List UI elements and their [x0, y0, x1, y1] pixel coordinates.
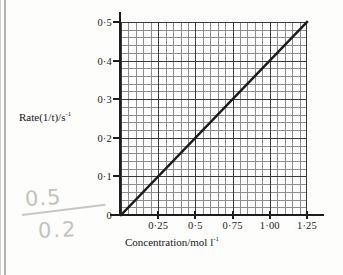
y-axis-title-exponent: -1 [65, 110, 71, 118]
x-axis-tick-label: 0·5 [188, 220, 203, 231]
y-axis-line [119, 12, 121, 216]
page-edge-artifact [0, 0, 1, 275]
y-axis-tick-label: 0·3 [97, 94, 112, 105]
binding-edge-line [4, 0, 6, 275]
y-axis-tick [113, 175, 121, 177]
y-axis-title: Rate(1/t)/s-1 [19, 111, 71, 123]
x-axis-tick-label: 1·00 [260, 220, 280, 231]
y-axis-tick-label: 0·4 [97, 55, 112, 66]
x-axis-tick [269, 211, 271, 219]
y-axis-tick-label: 0 [107, 210, 112, 221]
x-axis-tick [157, 211, 159, 219]
x-axis-tick-label: 0·25 [148, 220, 168, 231]
y-axis-tick [113, 137, 121, 139]
x-axis-tick [232, 211, 234, 219]
x-axis-title-text: Concentration/mol l [125, 236, 213, 248]
grid-right-border [306, 22, 307, 216]
x-axis-tick-label: 1·25 [297, 220, 317, 231]
graph-paper-grid [121, 22, 307, 215]
x-axis-tick [194, 211, 196, 219]
y-axis-tick [113, 214, 121, 216]
x-axis-line [110, 214, 324, 216]
y-axis-tick-labels: 00·10·20·30·40·5 [84, 0, 112, 275]
y-axis-title-text: Rate(1/t)/s [19, 111, 65, 123]
x-axis-title: Concentration/mol l-1 [125, 236, 219, 248]
y-axis-tick-label: 0·5 [97, 17, 112, 28]
grid-top-border [121, 22, 307, 23]
pencil-annotation-denominator: 0.2 [38, 217, 78, 242]
y-axis-tick-label: 0·2 [97, 132, 112, 143]
graph-page: 0·250·50·751·001·25 00·10·20·30·40·5 Rat… [0, 0, 343, 275]
y-axis-tick-label: 0·1 [97, 171, 112, 182]
x-axis-title-exponent: -1 [213, 235, 219, 243]
x-axis-tick [306, 211, 308, 219]
y-axis-tick [113, 60, 121, 62]
pencil-annotation-numerator: 0.5 [24, 185, 62, 211]
y-axis-tick [113, 21, 121, 23]
x-axis-tick-label: 0·75 [223, 220, 243, 231]
y-axis-tick [113, 98, 121, 100]
